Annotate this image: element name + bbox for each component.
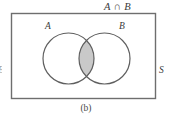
clipped-edge-glyph: E — [0, 66, 2, 76]
set-a-label: A — [45, 22, 51, 32]
universal-set-label: S — [159, 66, 164, 76]
venn-diagram-figure: A ∩ B A B S E (b) — [0, 0, 172, 123]
figure-caption: (b) — [0, 104, 172, 114]
intersection-expression-label: A ∩ B — [104, 2, 131, 13]
set-b-label: B — [119, 22, 125, 32]
